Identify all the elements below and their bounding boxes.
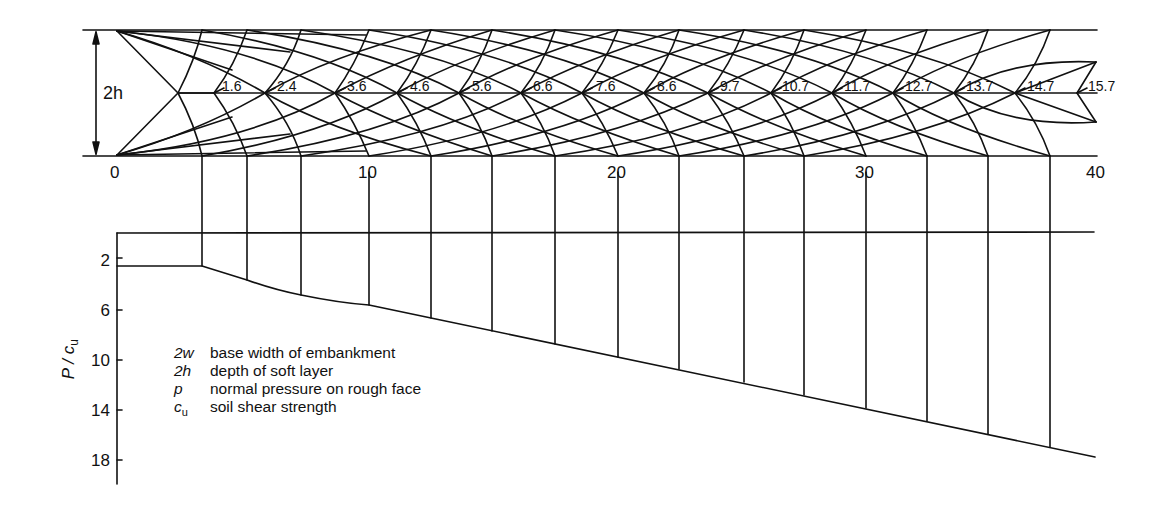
node-label: 6.6 — [533, 79, 552, 93]
node-label: 4.6 — [410, 79, 429, 93]
legend-text: depth of soft layer — [210, 362, 333, 380]
node-label: 7.6 — [596, 79, 615, 93]
x-tick-20: 20 — [607, 164, 626, 181]
legend-item: 2w base width of embankment — [174, 344, 421, 362]
depth-label: 2h — [103, 84, 123, 102]
legend-text: base width of embankment — [210, 344, 395, 362]
node-label: 10.7 — [782, 79, 809, 93]
depth-label-text: 2h — [103, 83, 123, 103]
y-axis-label: P / cu — [59, 339, 81, 379]
legend-symbol: cu — [174, 398, 210, 421]
legend-item: cu soil shear strength — [174, 398, 421, 421]
zero-line — [117, 232, 1094, 233]
arrow-down-icon — [93, 142, 99, 154]
x-tick-40: 40 — [1086, 164, 1105, 181]
node-label: 8.6 — [657, 79, 676, 93]
y-tick-6: 6 — [80, 302, 110, 319]
legend-symbol: 2h — [174, 362, 210, 380]
node-label: 2.4 — [277, 79, 296, 93]
y-tick-18: 18 — [80, 452, 110, 469]
legend-text: soil shear strength — [210, 398, 337, 421]
legend-item: p normal pressure on rough face — [174, 380, 421, 398]
x-tick-0: 0 — [110, 164, 119, 181]
y-tick-14: 14 — [80, 402, 110, 419]
slip-line-field-diagram — [0, 0, 1172, 514]
legend-item: 2h depth of soft layer — [174, 362, 421, 380]
y-axis-label-main: P / c — [59, 346, 78, 379]
node-label: 11.7 — [844, 79, 870, 93]
node-label: 13.7 — [966, 79, 993, 93]
node-label: 1.6 — [222, 79, 241, 93]
legend-symbol: 2w — [174, 344, 210, 362]
legend-text: normal pressure on rough face — [210, 380, 421, 398]
arrow-up-icon — [93, 32, 99, 44]
legend-symbol: p — [174, 380, 210, 398]
node-label: 12.7 — [905, 79, 932, 93]
node-label: 9.7 — [720, 79, 739, 93]
y-tick-2: 2 — [80, 252, 110, 269]
x-tick-30: 30 — [855, 164, 874, 181]
legend: 2w base width of embankment 2h depth of … — [174, 344, 421, 421]
y-tick-10: 10 — [80, 352, 110, 369]
x-tick-10: 10 — [358, 164, 377, 181]
node-label: 3.6 — [347, 79, 366, 93]
node-label: 15.7 — [1088, 79, 1115, 93]
node-label: 5.6 — [472, 79, 491, 93]
node-label: 14.7 — [1027, 79, 1054, 93]
y-axis-label-sub: u — [67, 339, 81, 346]
